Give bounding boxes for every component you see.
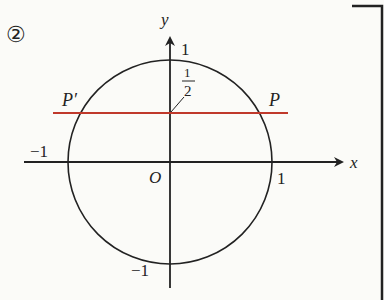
- fraction-denominator: 2: [184, 83, 192, 99]
- point-p-prime-label: P′: [61, 90, 78, 110]
- origin-label: O: [149, 168, 161, 187]
- unit-circle-diagram: ② y x 1 −1 −1 1 O 1 2 P P′: [0, 0, 384, 300]
- half-leader-line: [171, 97, 184, 112]
- fraction-numerator: 1: [184, 65, 191, 80]
- x-axis-label: x: [349, 153, 358, 172]
- tick-y-pos: 1: [181, 40, 190, 59]
- point-p-label: P: [268, 90, 280, 110]
- y-axis-label: y: [159, 10, 169, 29]
- tick-x-neg: −1: [30, 142, 48, 161]
- tick-x-pos: 1: [277, 169, 286, 188]
- problem-number: ②: [6, 22, 26, 47]
- tick-y-neg: −1: [131, 261, 149, 280]
